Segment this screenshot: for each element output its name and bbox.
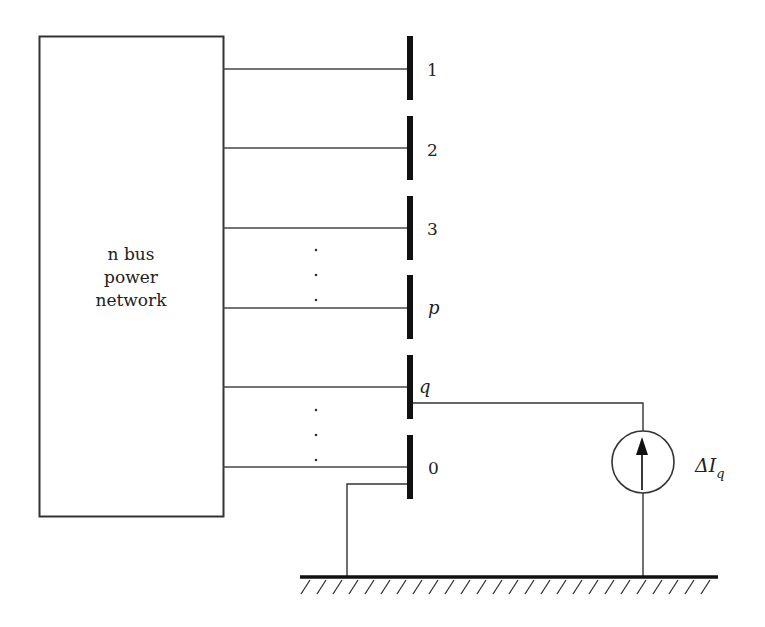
bus-label-p: p (428, 297, 440, 318)
svg-text:network: network (95, 290, 167, 310)
svg-text:3: 3 (427, 219, 438, 239)
bus-label-2: 2 (427, 140, 438, 160)
bus-bars (407, 36, 413, 499)
source-label-sub: q (716, 466, 724, 481)
svg-text:2: 2 (427, 140, 438, 160)
bus-label-0: 0 (428, 458, 439, 478)
ground-wire (347, 484, 407, 577)
svg-text:ΔIq: ΔIq (694, 454, 725, 481)
power-network-diagram: n bus power network 1 2 3 p q 0 Δ (0, 0, 765, 627)
source-label: ΔI (694, 454, 717, 476)
bus-label-q: q (419, 376, 431, 397)
ground-hatch-icon (300, 577, 718, 594)
bus-bar-0 (407, 435, 413, 499)
bus-label-1: 1 (427, 60, 438, 80)
network-label-2: power (104, 267, 159, 287)
source-wire (413, 403, 643, 577)
current-source-icon (612, 431, 674, 493)
svg-text:power: power (104, 267, 159, 287)
bus-bar-3 (407, 196, 413, 260)
network-label-3: network (95, 290, 167, 310)
ellipsis-dots (315, 249, 318, 462)
network-label-1: n bus (108, 244, 155, 264)
bus-bar-q (407, 355, 413, 419)
svg-text:0: 0 (428, 458, 439, 478)
svg-text:n bus: n bus (108, 244, 155, 264)
bus-bar-2 (407, 116, 413, 180)
bus-label-3: 3 (427, 219, 438, 239)
svg-text:p: p (428, 297, 440, 318)
bus-bar-1 (407, 36, 413, 100)
branch-lines (223, 69, 410, 467)
svg-text:q: q (419, 376, 431, 397)
bus-bar-p (407, 275, 413, 339)
svg-text:1: 1 (427, 60, 438, 80)
